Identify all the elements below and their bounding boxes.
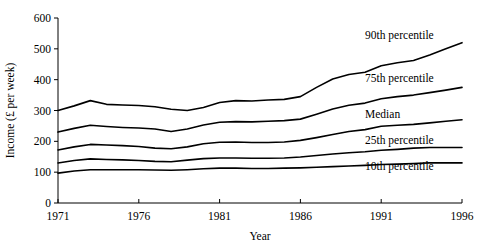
series-paths-group — [58, 43, 462, 173]
x-tick-label-1971: 1971 — [47, 210, 70, 222]
y-tick-label-600: 600 — [34, 12, 52, 24]
series-label-25th-percentile: 25th percentile — [365, 134, 434, 147]
x-axis: 197119761981198619911996 — [47, 199, 474, 222]
series-label-median: Median — [365, 108, 400, 120]
chart-plot-area: 0100200300400500600 19711976198119861991… — [0, 0, 486, 251]
y-tick-label-500: 500 — [34, 43, 52, 55]
y-tick-label-100: 100 — [34, 166, 52, 178]
y-tick-label-400: 400 — [34, 74, 52, 86]
y-tick-label-200: 200 — [34, 135, 52, 147]
y-tick-label-300: 300 — [34, 105, 52, 117]
income-percentile-line-chart: 0100200300400500600 19711976198119861991… — [0, 0, 486, 251]
series-label-75th-percentile: 75th percentile — [365, 72, 434, 85]
series-label-10th-percentile: 10th percentile — [365, 160, 434, 173]
x-tick-label-1986: 1986 — [289, 210, 312, 222]
y-tick-label-0: 0 — [45, 197, 51, 209]
series-label-90th-percentile: 90th percentile — [365, 29, 434, 42]
x-tick-group: 197119761981198619911996 — [47, 199, 474, 222]
y-tick-group: 0100200300400500600 — [34, 12, 58, 209]
x-tick-label-1976: 1976 — [127, 210, 150, 222]
y-axis: 0100200300400500600 — [34, 12, 58, 209]
x-tick-label-1991: 1991 — [370, 210, 393, 222]
x-tick-label-1981: 1981 — [208, 210, 231, 222]
y-axis-title: Income (£ per week) — [4, 63, 17, 159]
x-tick-label-1996: 1996 — [451, 210, 474, 222]
x-axis-title: Year — [249, 230, 270, 242]
